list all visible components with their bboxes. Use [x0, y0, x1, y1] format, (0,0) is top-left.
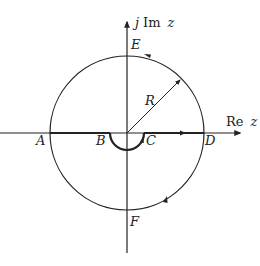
direction-arrow-lower: [163, 196, 168, 203]
label-A: A: [35, 133, 45, 148]
label-R: R: [144, 93, 155, 108]
direction-arrow-upper: [144, 54, 151, 58]
contour-diagram: A B C D E F R Re z j Im z: [0, 0, 260, 266]
label-B: B: [95, 133, 106, 148]
real-axis-label: Re z: [226, 112, 257, 129]
direction-arrow-CD: [180, 131, 186, 136]
label-F: F: [129, 214, 140, 229]
label-D: D: [204, 133, 216, 148]
label-E: E: [130, 37, 141, 52]
label-C: C: [146, 133, 156, 148]
imag-axis-label: j Im z: [132, 13, 175, 30]
